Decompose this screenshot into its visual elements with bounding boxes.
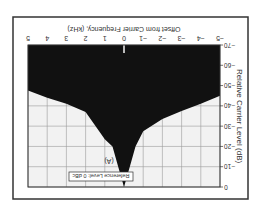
y-tick-label: 0	[224, 184, 228, 191]
x-tick-label: −1	[139, 35, 147, 42]
x-tick-label: 0	[122, 35, 126, 42]
x-tick-label: −2	[158, 35, 166, 42]
x-tick-label: −5	[216, 35, 224, 42]
x-tick-label: 3	[64, 35, 68, 42]
x-tick-label: −4	[197, 35, 205, 42]
y-tick-label: −50	[224, 82, 235, 89]
y-axis-label: Relative Carrier Level (dB)	[235, 69, 244, 164]
y-tick-label: −10	[224, 163, 235, 170]
y-tick-label: −20	[224, 143, 235, 150]
chart-svg: −5−4−3−2−1012345 −70−60−50−40−30−20−100 …	[0, 0, 259, 208]
y-tick-label: −40	[224, 102, 235, 109]
carrier-spike	[123, 45, 125, 53]
panel-label: (A)	[104, 157, 113, 165]
x-tick-label: −3	[178, 35, 186, 42]
y-tick-label: −70	[224, 42, 235, 49]
x-tick-label: 1	[103, 35, 107, 42]
rotated-figure: −5−4−3−2−1012345 −70−60−50−40−30−20−100 …	[0, 0, 259, 208]
reference-level-annotation: Reference Level: 0 dBc	[72, 173, 129, 179]
y-tick-label: −60	[224, 62, 235, 69]
x-tick-label: 5	[26, 35, 30, 42]
x-tick-label: 2	[84, 35, 88, 42]
x-axis-label: Offset from Carrier Frequency, (kHz)	[68, 25, 181, 33]
x-tick-label: 4	[45, 35, 49, 42]
y-tick-label: −30	[224, 123, 235, 130]
